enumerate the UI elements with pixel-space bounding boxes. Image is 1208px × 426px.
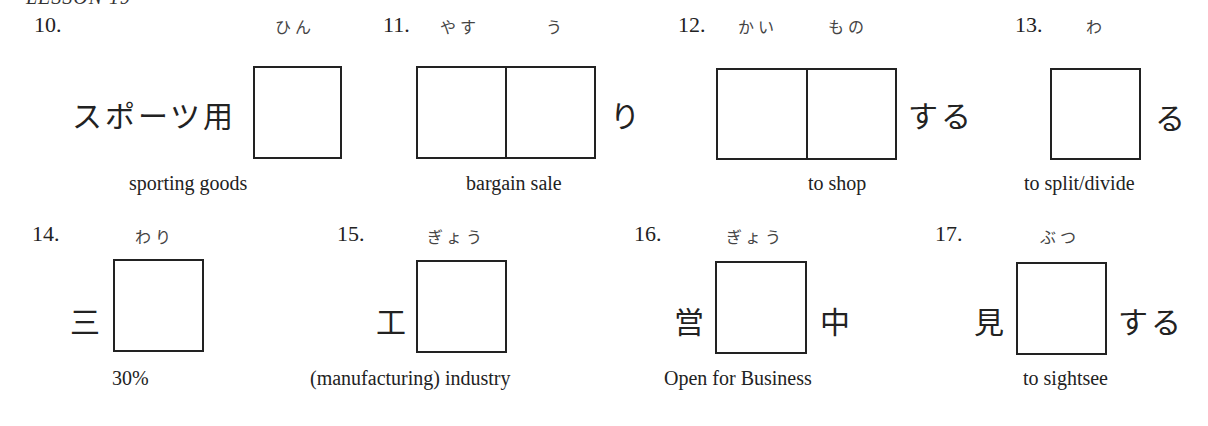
- furigana-wari: わり: [135, 224, 175, 248]
- furigana-hin: ひん: [275, 14, 315, 38]
- kanji-answer-box[interactable]: [113, 259, 204, 352]
- kanji-answer-box[interactable]: [418, 68, 505, 157]
- furigana-u: う: [546, 14, 566, 38]
- kanji-answer-box[interactable]: [715, 261, 807, 354]
- furigana-butsu: ぶつ: [1040, 224, 1080, 248]
- suffix-text: る: [1155, 94, 1188, 138]
- furigana-kai: かい: [738, 14, 778, 38]
- exercise-number: 10.: [34, 12, 62, 38]
- exercise-number: 15.: [337, 221, 365, 247]
- kanji-answer-box-pair: [416, 66, 596, 159]
- furigana-gyou: ぎょう: [726, 224, 785, 248]
- english-gloss: to shop: [808, 172, 866, 195]
- suffix-text: する: [1118, 298, 1184, 342]
- furigana-gyou: ぎょう: [427, 224, 486, 248]
- furigana-mono: もの: [828, 14, 868, 38]
- english-gloss: (manufacturing) industry: [310, 367, 511, 390]
- suffix-text: 中: [820, 298, 853, 342]
- exercise-number: 17.: [935, 221, 963, 247]
- prefix-text: 工: [376, 298, 409, 342]
- kanji-answer-box[interactable]: [505, 68, 594, 157]
- english-gloss: to split/divide: [1024, 172, 1135, 195]
- suffix-text: り: [610, 92, 643, 136]
- kanji-answer-box[interactable]: [1016, 262, 1107, 355]
- kanji-answer-box-pair: [716, 68, 897, 160]
- lesson-header: LESSON 19: [26, 0, 131, 9]
- prefix-text: スポーツ用: [72, 92, 236, 136]
- kanji-answer-box[interactable]: [253, 66, 342, 159]
- exercise-number: 14.: [32, 221, 60, 247]
- kanji-answer-box[interactable]: [416, 260, 507, 353]
- exercise-number: 16.: [634, 221, 662, 247]
- english-gloss: to sightsee: [1023, 367, 1108, 390]
- english-gloss: Open for Business: [664, 367, 812, 390]
- english-gloss: bargain sale: [466, 172, 562, 195]
- prefix-text: 営: [674, 298, 707, 342]
- exercise-number: 13.: [1015, 12, 1043, 38]
- english-gloss: 30%: [112, 367, 149, 390]
- furigana-wa: わ: [1086, 14, 1106, 38]
- kanji-answer-box[interactable]: [806, 70, 896, 158]
- exercise-number: 11.: [383, 12, 410, 38]
- prefix-text: 三: [70, 298, 103, 342]
- furigana-yasu: やす: [440, 14, 480, 38]
- prefix-text: 見: [974, 298, 1007, 342]
- suffix-text: する: [908, 92, 974, 136]
- english-gloss: sporting goods: [129, 172, 247, 195]
- kanji-answer-box[interactable]: [1050, 68, 1141, 160]
- kanji-answer-box[interactable]: [718, 70, 806, 158]
- exercise-number: 12.: [678, 12, 706, 38]
